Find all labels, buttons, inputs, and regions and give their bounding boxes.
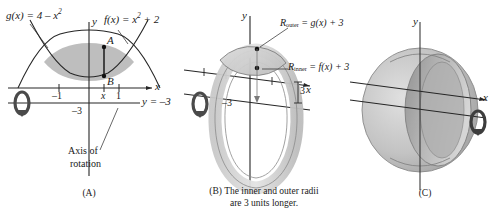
y-intercept-label-minus3: –3	[72, 106, 82, 116]
tick-label-x: x	[101, 91, 105, 101]
panel-a-x-axis-label: x	[155, 81, 160, 92]
point-b-label: B	[107, 76, 114, 87]
panel-b-caption-line2: are 3 units longer.	[174, 198, 354, 210]
tick-label-1: 1	[116, 91, 121, 101]
axis-of-rotation-equation-label: y = –3	[142, 96, 171, 107]
axis-of-rotation-leader	[100, 108, 118, 150]
panel-b-caption: (B) The inner and outer radii are 3 unit…	[174, 186, 354, 210]
r-outer-measure-arrow	[254, 96, 260, 103]
panel-b: y x Router = g(x) + 3 Rinner = f(x) + 3 …	[178, 0, 350, 219]
point-b-dot	[102, 74, 106, 78]
panel-b-caption-line1: (B) The inner and outer radii	[174, 186, 354, 198]
panel-a-caption: (A)	[0, 188, 178, 200]
panel-a-graphic	[0, 0, 178, 219]
axis-of-rotation-text-line1: Axis of	[68, 146, 98, 156]
panel-c-y-axis-label: y	[413, 16, 418, 27]
r-outer-leader	[260, 28, 288, 47]
f-label-leader	[118, 30, 128, 44]
panel-a-y-axis-label: y	[92, 16, 97, 27]
axis-of-rotation-text-line2: rotation	[70, 159, 101, 169]
rotation-arrow-icon	[15, 92, 29, 117]
panel-c-caption: (C)	[350, 188, 500, 200]
panel-c-graphic	[350, 0, 500, 219]
point-a-label: A	[107, 35, 114, 46]
panel-b-y-tick-label: –3	[222, 98, 232, 108]
curve-g-label: g(x) = 4 – x2	[6, 8, 62, 21]
r-outer-label: Router = g(x) + 3	[280, 18, 343, 28]
tick-label-minus1: –1	[52, 91, 62, 101]
point-a-dot	[102, 45, 106, 49]
panel-a: g(x) = 4 – x2 f(x) = x2 + 2 y x A B –1 x…	[0, 0, 178, 219]
panel-c: y x (C)	[350, 0, 500, 219]
rotation-arrow-icon	[193, 93, 207, 118]
panel-b-y-axis-label: y	[242, 10, 247, 21]
x-axis-arrow	[146, 86, 152, 90]
r-inner-label: Rinner = f(x) + 3	[288, 62, 349, 72]
panel-c-x-axis-label: x	[483, 92, 488, 103]
panel-b-x-axis-label: x	[306, 84, 311, 95]
measure-3-label: 3	[300, 86, 305, 96]
g-label-leader	[30, 24, 48, 48]
curve-f-label: f(x) = x2 + 2	[104, 12, 159, 25]
